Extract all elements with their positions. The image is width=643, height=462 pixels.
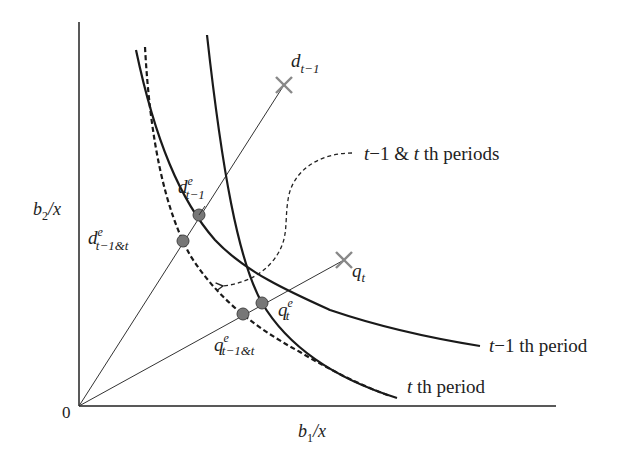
point-q-e-t	[256, 297, 268, 309]
y-axis-label: b2/x	[33, 199, 61, 223]
curve-combined-periods	[145, 47, 390, 396]
label-d-t-minus-1: dt−1	[291, 50, 319, 76]
label-t-minus-1-th-period: t−1 th period	[489, 335, 588, 356]
point-d-e-combined	[177, 235, 189, 247]
point-q-e-combined	[237, 308, 249, 320]
label-combined-periods: t−1 & t th periods	[364, 143, 499, 164]
d-t-minus-1-cross-icon	[276, 77, 292, 93]
x-axis-label: b1/x	[298, 421, 326, 445]
diagram-canvas: 0 b1/x b2/x dt−1 det−1 det−1&t qt qet qe…	[0, 0, 643, 462]
label-d-e-combined: det−1&t	[88, 225, 129, 253]
label-q-t: qt	[352, 260, 366, 285]
label-t-th-period: t th period	[407, 376, 486, 397]
label-d-e-t-minus-1: det−1	[178, 174, 205, 202]
label-q-e-combined: qet−1&t	[214, 331, 255, 358]
label-q-e-t: qet	[278, 296, 294, 323]
origin-label: 0	[62, 403, 71, 422]
ray-to-q-t	[79, 260, 344, 406]
q-t-cross-icon	[336, 252, 352, 268]
